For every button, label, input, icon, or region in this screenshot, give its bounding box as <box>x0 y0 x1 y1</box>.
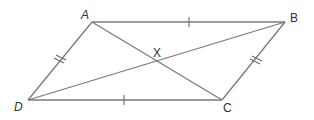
vertex-label-d: D <box>14 100 23 114</box>
intersection-label-x: X <box>153 46 161 60</box>
parallelogram-diagram: A B C D X <box>0 0 314 120</box>
diagram-canvas: A B C D X <box>0 0 314 120</box>
diagonal-bd <box>28 22 285 100</box>
vertex-label-c: C <box>223 101 232 115</box>
vertex-label-a: A <box>80 8 89 22</box>
vertex-label-b: B <box>290 11 298 25</box>
